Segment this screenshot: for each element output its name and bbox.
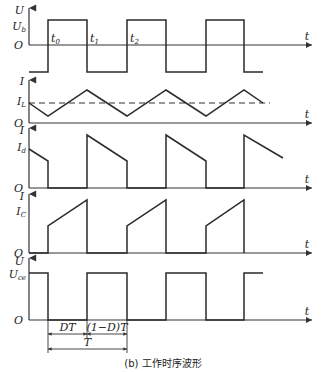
dimension-label-dt: DT bbox=[58, 321, 77, 334]
panel-u-ce: tUUceO bbox=[9, 255, 312, 327]
level-label: Id bbox=[16, 141, 26, 155]
panel-u-b: tUUbOt0t1t2 bbox=[12, 4, 312, 72]
figure-caption: (b) 工作时序波形 bbox=[124, 357, 201, 369]
waveform-u-b bbox=[29, 20, 263, 72]
y-axis-label: U bbox=[15, 4, 25, 17]
panel-i-l: tIILO bbox=[14, 75, 312, 130]
dimension-label-one_minus_d_t: (1−D)T bbox=[87, 321, 130, 334]
level-label: IC bbox=[15, 205, 26, 219]
waveform-i-d bbox=[29, 135, 283, 188]
level-label: Ub bbox=[12, 20, 26, 34]
dimension-annotations: DT(1−D)TT bbox=[48, 320, 129, 353]
dimension-label-period: T bbox=[84, 336, 93, 349]
timing-waveform-diagram: tUUbOt0t1t2tIILOtIIdOtIICOtUUceO DT(1−D)… bbox=[0, 0, 326, 372]
time-axis-label: t bbox=[305, 173, 310, 186]
y-axis-label: U bbox=[15, 255, 25, 268]
level-label: IL bbox=[16, 95, 26, 109]
waveform-u-ce bbox=[29, 273, 263, 320]
origin-label: O bbox=[14, 314, 23, 327]
waveform-panels: tUUbOt0t1t2tIILOtIIdOtIICOtUUceO bbox=[9, 4, 312, 327]
time-axis-label: t bbox=[305, 30, 310, 43]
origin-label: O bbox=[14, 39, 23, 52]
level-label: Uce bbox=[9, 268, 26, 282]
time-axis-label: t bbox=[305, 108, 310, 121]
y-axis-label: I bbox=[19, 190, 25, 203]
time-mark-t1: t1 bbox=[90, 32, 99, 46]
time-mark-t0: t0 bbox=[51, 32, 60, 46]
panel-i-c: tIICO bbox=[14, 190, 312, 260]
time-axis-label: t bbox=[305, 238, 310, 251]
y-axis-label: I bbox=[19, 124, 25, 137]
time-mark-t2: t2 bbox=[130, 32, 139, 46]
panel-i-d: tIIdO bbox=[14, 124, 312, 195]
y-axis-label: I bbox=[19, 75, 25, 88]
time-axis-label: t bbox=[305, 305, 310, 318]
waveform-i-c bbox=[29, 200, 244, 253]
